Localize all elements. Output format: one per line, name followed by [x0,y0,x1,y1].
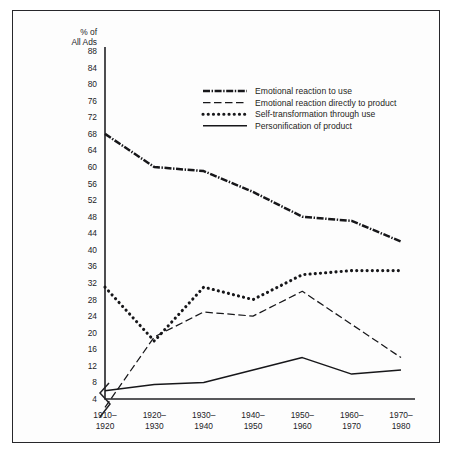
y-axis-tick-label: 40 [88,245,98,255]
legend-label-4: Personification of product [255,121,353,131]
y-axis-tick-label: 68 [88,129,98,139]
x-axis-tick-label: 1980 [392,421,411,431]
line-chart: 8884807672686460565248444036322824201612… [13,11,441,444]
legend-label-1: Emotional reaction to use [255,86,352,96]
series-line-emotional-reaction-to-use [105,134,401,242]
y-axis-tick-label: 80 [88,79,98,89]
x-axis-tick-label: 1960– [340,410,364,420]
x-axis-tick-label: 1910– [93,410,117,420]
y-axis-title-line2: All Ads [71,37,97,47]
y-axis-tick-label: 4 [92,394,97,404]
y-axis-tick-label: 84 [88,63,98,73]
series-line-self-transformation-through-use [105,271,401,341]
y-axis-tick-label: 72 [88,112,98,122]
chart-figure-frame: 8884807672686460565248444036322824201612… [12,10,440,443]
y-axis-tick-label: 28 [88,295,98,305]
y-axis-tick-label: 24 [88,311,98,321]
y-axis-tick-label: 76 [88,96,98,106]
y-axis-tick-label: 36 [88,261,98,271]
y-axis-tick-label: 12 [88,361,98,371]
chart-plot-area: 8884807672686460565248444036322824201612… [13,11,439,442]
y-axis-tick-label: 48 [88,212,98,222]
y-axis-tick-label: 32 [88,278,98,288]
x-axis-tick-label: 1970– [389,410,413,420]
legend-label-2: Emotional reaction directly to product [255,98,397,108]
x-axis-tick-label: 1960 [293,421,312,431]
x-axis-tick-label: 1920– [143,410,167,420]
x-axis-tick-label: 1920 [96,421,115,431]
x-axis-tick-label: 1950 [244,421,263,431]
y-axis-tick-label: 16 [88,344,98,354]
y-axis-tick-label: 44 [88,228,98,238]
y-axis-tick-label: 52 [88,195,98,205]
y-axis-title-line1: % of [80,27,97,37]
x-axis-tick-label: 1930– [192,410,216,420]
y-axis-tick-label: 88 [88,46,98,56]
x-axis-tick-label: 1940– [241,410,265,420]
x-axis-tick-label: 1930 [145,421,164,431]
y-axis-tick-label: 20 [88,328,98,338]
series-line-personification-of-product [105,358,401,391]
y-axis-tick-label: 64 [88,145,98,155]
x-axis-tick-label: 1970 [342,421,361,431]
y-axis-tick-label: 56 [88,179,98,189]
x-axis-tick-label: 1940 [194,421,213,431]
series-line-emotional-reaction-directly-to-product [105,291,401,407]
legend-label-3: Self-transformation through use [255,109,376,119]
y-axis-tick-label: 8 [92,377,97,387]
x-axis-tick-label: 1950– [291,410,315,420]
y-axis-tick-label: 60 [88,162,98,172]
